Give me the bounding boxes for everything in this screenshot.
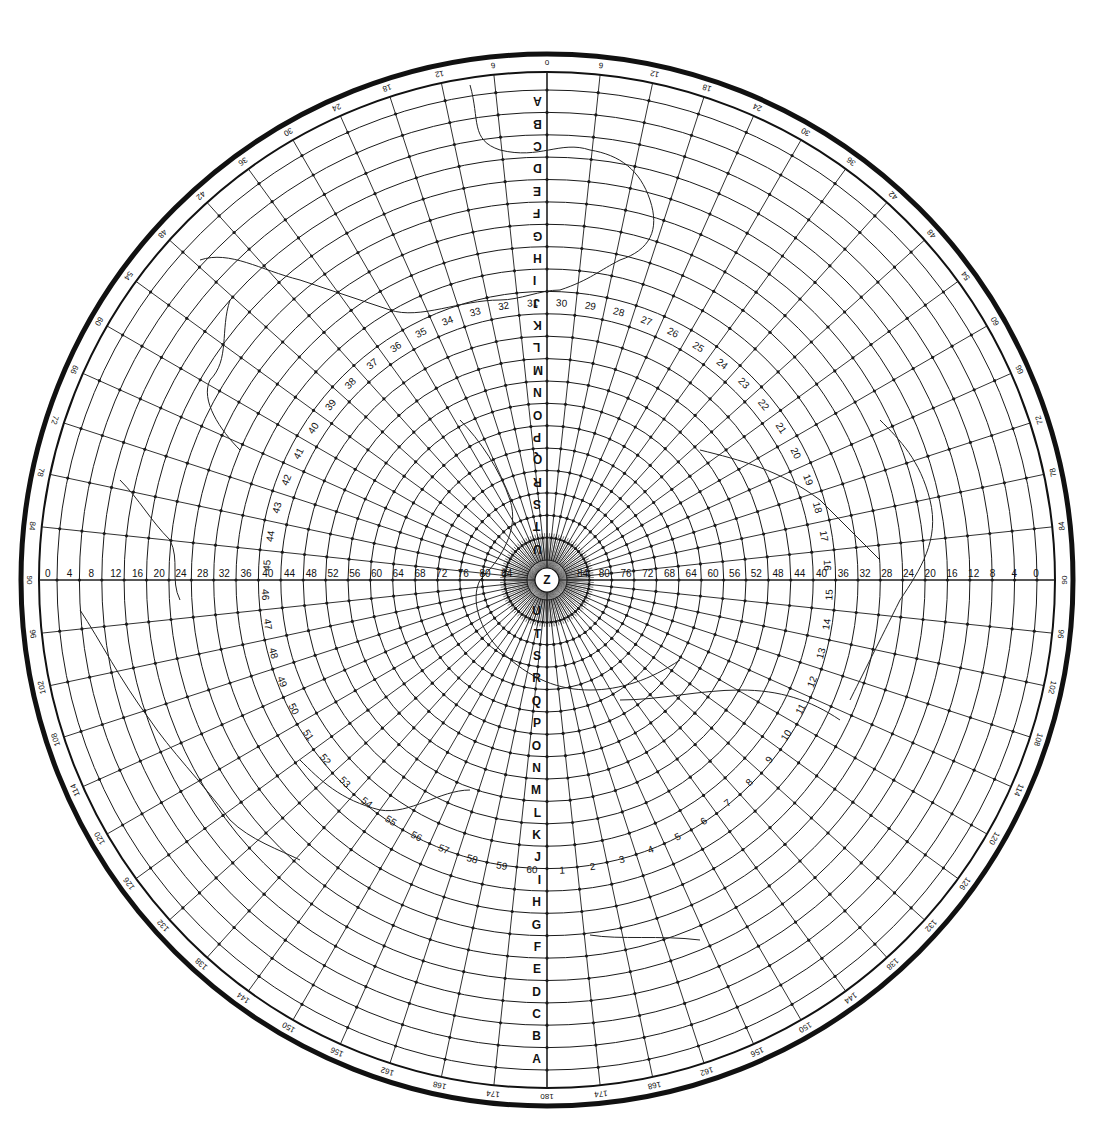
grid-node: [593, 432, 596, 435]
grid-node: [736, 151, 739, 154]
grid-node: [364, 172, 367, 175]
grid-node: [459, 588, 462, 591]
grid-node: [373, 965, 376, 968]
grid-node: [611, 464, 614, 467]
grid-node: [876, 281, 879, 284]
grid-node: [662, 938, 665, 941]
grid-node: [893, 652, 896, 655]
grid-node: [491, 746, 494, 749]
grid-node: [394, 112, 397, 115]
grid-node: [674, 551, 677, 554]
scale-label-right: 76: [621, 568, 633, 579]
grid-node: [815, 423, 818, 426]
grid-node: [578, 269, 581, 272]
grid-node: [453, 1014, 456, 1017]
grid-node: [727, 985, 730, 988]
grid-node: [539, 514, 542, 517]
grid-node: [159, 406, 162, 409]
grid-node: [873, 767, 876, 770]
grid-node: [643, 1036, 646, 1039]
grid-node: [621, 622, 624, 625]
scale-label-right: 28: [881, 568, 893, 579]
grid-node: [854, 401, 857, 404]
ring-letter-top: N: [533, 385, 542, 399]
grid-node: [527, 493, 530, 496]
grid-node: [743, 599, 746, 602]
grid-node: [491, 484, 494, 487]
ring-letter-top: H: [533, 251, 542, 265]
grid-node: [504, 977, 507, 980]
grid-node: [784, 629, 787, 632]
grid-node: [743, 400, 746, 403]
grid-node: [756, 647, 759, 650]
grid-node: [876, 876, 879, 879]
grid-node: [350, 309, 353, 312]
grid-node: [699, 233, 702, 236]
grid-node: [389, 794, 392, 797]
grid-node: [993, 778, 996, 781]
grid-node: [915, 500, 918, 503]
ring-letter-bottom: Q: [532, 694, 541, 708]
grid-node: [220, 723, 223, 726]
grid-node: [990, 434, 993, 437]
grid-node: [241, 643, 244, 646]
grid-node: [464, 505, 467, 508]
grid-node: [915, 657, 918, 660]
grid-node: [192, 616, 195, 619]
grid-node: [399, 531, 402, 534]
grid-node: [768, 331, 771, 334]
grid-node: [66, 477, 69, 480]
grid-node: [717, 965, 720, 968]
grid-node: [873, 214, 876, 217]
azimuth-label-right: 12: [649, 68, 660, 79]
scale-label-left: 20: [154, 568, 166, 579]
grid-node: [869, 814, 872, 817]
grid-node: [798, 297, 801, 300]
grid-node: [66, 680, 69, 683]
grid-node: [581, 499, 584, 502]
grid-node: [688, 475, 691, 478]
grid-node: [192, 541, 195, 544]
grid-node: [394, 1044, 397, 1047]
grid-node: [721, 597, 724, 600]
grid-node: [457, 480, 460, 483]
grid-node: [481, 883, 484, 886]
grid-node: [466, 543, 469, 546]
grid-node: [80, 627, 83, 630]
grid-node: [446, 406, 449, 409]
ring-letter-top: B: [533, 117, 542, 131]
grid-node: [690, 329, 693, 332]
grid-node: [481, 637, 484, 640]
grid-node: [572, 661, 575, 664]
grid-node: [1025, 477, 1028, 480]
grid-node: [441, 612, 444, 615]
grid-node: [271, 489, 274, 492]
grid-node: [352, 364, 355, 367]
grid-node: [826, 831, 829, 834]
grid-node: [463, 832, 466, 835]
grid-node: [412, 501, 415, 504]
grid-node: [781, 254, 784, 257]
spiral-number: 33: [468, 305, 482, 319]
grid-node: [296, 723, 299, 726]
azimuth-label-left: 66: [68, 364, 80, 376]
grid-node: [292, 859, 295, 862]
grid-node: [679, 431, 682, 434]
grid-node: [448, 121, 451, 124]
spiral-number: 19: [801, 473, 815, 488]
grid-node: [795, 723, 798, 726]
grid-node: [241, 443, 244, 446]
grid-node: [501, 158, 504, 161]
grid-node: [522, 799, 525, 802]
grid-node: [527, 754, 530, 757]
grid-node: [571, 336, 574, 339]
grid-node: [334, 700, 337, 703]
grid-node: [760, 385, 763, 388]
grid-node: [470, 347, 473, 350]
spiral-number: 38: [342, 375, 358, 391]
grid-node: [790, 1003, 793, 1006]
grid-node: [988, 625, 991, 628]
grid-node: [509, 751, 512, 754]
spiral-number: 37: [364, 356, 380, 372]
grid-node: [583, 225, 586, 228]
